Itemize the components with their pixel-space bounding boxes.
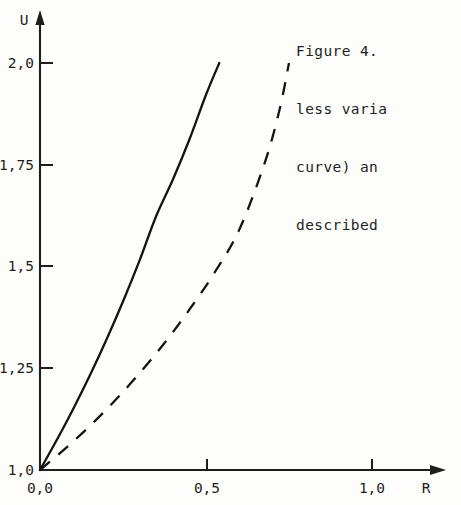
x-tick-label-0-0: 0,0 <box>27 480 53 496</box>
y-axis <box>35 10 44 470</box>
y-ticks <box>40 63 53 470</box>
data-curve-dashed <box>40 63 289 470</box>
chart-plot-area: 2,0 1,75 1,5 1,25 1,0 0,0 0,5 1,0 U R <box>0 0 461 505</box>
y-axis-label: U <box>20 12 29 28</box>
y-tick-label-1-5: 1,5 <box>8 258 34 274</box>
x-axis <box>40 465 446 475</box>
data-curve-solid <box>40 63 219 470</box>
y-axis-arrow-icon <box>35 10 44 25</box>
x-ticks <box>40 459 372 470</box>
x-tick-label-0-5: 0,5 <box>194 480 220 496</box>
x-tick-label-1-0: 1,0 <box>359 480 385 496</box>
y-tick-label-1-75: 1,75 <box>0 157 34 173</box>
x-axis-arrow-icon <box>430 465 446 475</box>
y-tick-label-1-0: 1,0 <box>8 462 34 478</box>
figure-page: Figure 4. less varia curve) an described <box>0 0 461 505</box>
y-tick-label-1-25: 1,25 <box>0 360 34 376</box>
x-axis-label: R <box>422 480 431 496</box>
y-tick-label-2-0: 2,0 <box>8 55 34 71</box>
